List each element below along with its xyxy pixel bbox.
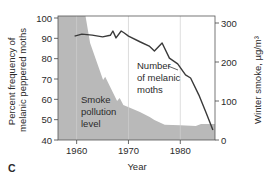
tick-label: 1980 bbox=[170, 145, 191, 156]
tick-label: 1960 bbox=[66, 145, 87, 156]
tick-label: 0 bbox=[221, 135, 226, 146]
moth-annotation: Number of melanic moths bbox=[137, 60, 183, 95]
right-axis: 0100200300 bbox=[215, 18, 237, 146]
y-axis-left-title: Percent frequency of melanic peppered mo… bbox=[6, 28, 28, 132]
tick-label: 60 bbox=[41, 94, 52, 105]
tick-label: 100 bbox=[221, 96, 237, 107]
tick-label: 80 bbox=[41, 53, 52, 64]
tick-label: 300 bbox=[221, 18, 237, 29]
left-axis: 405060708090100 bbox=[36, 13, 58, 146]
x-axis: 196019701980 bbox=[66, 140, 191, 156]
tick-label: 90 bbox=[41, 33, 52, 44]
tick-label: 40 bbox=[41, 135, 52, 146]
x-axis-title: Year bbox=[127, 161, 146, 172]
y-axis-right-title: Winter smoke, µg/m³ bbox=[252, 36, 263, 124]
chart: 405060708090100 0100200300 196019701980 … bbox=[0, 0, 268, 183]
tick-label: 70 bbox=[41, 74, 52, 85]
tick-label: 50 bbox=[41, 114, 52, 125]
tick-label: 1970 bbox=[118, 145, 139, 156]
tick-label: 200 bbox=[221, 57, 237, 68]
tick-label: 100 bbox=[36, 13, 52, 24]
panel-label: C bbox=[8, 162, 16, 174]
